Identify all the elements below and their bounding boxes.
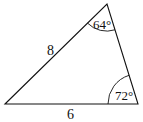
angle-label-right: 72° [115,88,133,103]
angle-label-top: 64° [93,17,111,32]
triangle-diagram: 64° 72° 8 6 [0,0,143,122]
triangle-svg: 64° 72° 8 6 [0,0,143,122]
side-label-bottom: 6 [67,107,74,122]
side-label-left: 8 [47,43,54,58]
